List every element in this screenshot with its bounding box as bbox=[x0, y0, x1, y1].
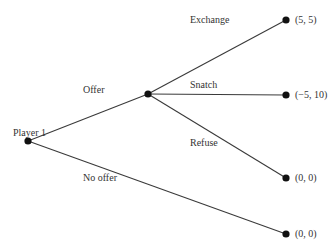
move-label-exchange: Exchange bbox=[190, 14, 229, 26]
move-label-offer: Offer bbox=[83, 84, 104, 96]
terminal-node-no-offer bbox=[282, 230, 289, 237]
root-label: Player 1 bbox=[13, 127, 46, 139]
payoff-snatch: (−5, 10) bbox=[295, 89, 327, 101]
payoff-no-offer: (0, 0) bbox=[295, 228, 317, 240]
move-label-refuse: Refuse bbox=[190, 137, 218, 149]
payoff-exchange: (5, 5) bbox=[295, 14, 317, 26]
move-label-no-offer: No offer bbox=[83, 172, 117, 184]
game-tree-diagram: Player 1 Offer No offer Exchange Snatch … bbox=[0, 0, 336, 252]
terminal-node-exchange bbox=[282, 16, 289, 23]
decision-node bbox=[144, 90, 151, 97]
payoff-refuse: (0, 0) bbox=[295, 172, 317, 184]
edge-snatch bbox=[148, 94, 286, 95]
terminal-node-snatch bbox=[282, 91, 289, 98]
edge-refuse bbox=[148, 94, 286, 178]
terminal-node-refuse bbox=[282, 174, 289, 181]
tree-edges bbox=[0, 0, 336, 252]
move-label-snatch: Snatch bbox=[190, 79, 217, 91]
